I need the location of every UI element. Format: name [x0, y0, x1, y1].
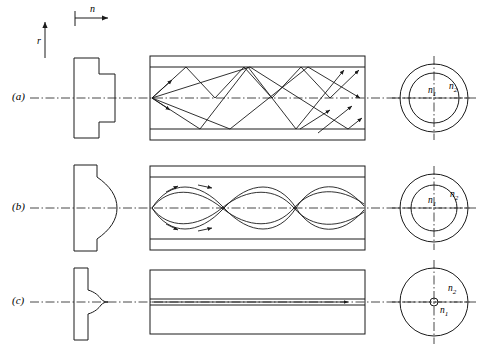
- row-b-core-index-label: n1: [428, 196, 436, 208]
- fiber-types-figure: r n (a) (b) (c) n1 n2 n1 n2 n1 n2: [0, 0, 490, 359]
- row-b-core-index-sub: 1: [433, 200, 437, 208]
- axis-key: [45, 11, 108, 58]
- axis-label-n: n: [90, 4, 95, 14]
- row-a-core-index-sub: 1: [433, 90, 437, 98]
- row-a-core-index-label: n1: [428, 86, 436, 98]
- row-c-core-index-sub: 1: [445, 310, 449, 318]
- row-b-clad-index-label: n2: [450, 190, 458, 202]
- row-label-a: (a): [12, 91, 25, 102]
- row-a-rays: [152, 67, 362, 133]
- row-c-clad-index-label: n2: [448, 284, 456, 296]
- row-label-b: (b): [12, 201, 25, 212]
- axis-label-r: r: [37, 36, 41, 46]
- row-c-clad-index-sub: 2: [453, 288, 457, 296]
- row-a-clad-index-label: n2: [449, 82, 457, 94]
- row-label-c: (c): [12, 295, 24, 306]
- row-a-clad-index-sub: 2: [454, 86, 458, 94]
- figure-canvas: [0, 0, 490, 359]
- row-c-core-index-label: n1: [440, 306, 448, 318]
- row-c-index-profile: [74, 268, 108, 340]
- row-b-clad-index-sub: 2: [455, 194, 459, 202]
